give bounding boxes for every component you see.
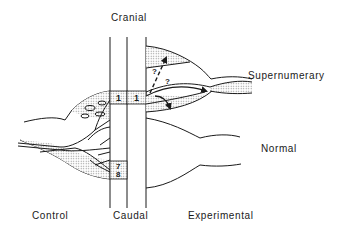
label-experimental: Experimental <box>188 210 254 221</box>
segment-number: 8 <box>116 170 121 179</box>
label-normal: Normal <box>261 143 297 154</box>
label-cranial: Cranial <box>111 12 147 23</box>
control-limb <box>18 91 110 179</box>
label-caudal: Caudal <box>113 210 148 221</box>
question-mark: ? <box>165 77 170 86</box>
label-control: Control <box>32 210 68 221</box>
diagram-canvas: 1 1 7 8 ? ? <box>0 0 338 235</box>
label-supernumerary: Supernumerary <box>248 70 325 81</box>
nerve-branch <box>98 152 110 155</box>
normal-upper-outline <box>146 118 240 138</box>
question-mark: ? <box>152 67 157 76</box>
normal-lower-outline <box>146 164 241 188</box>
segment-number: 1 <box>116 93 121 103</box>
graft-boundaries <box>110 37 146 208</box>
nerve-branch <box>100 138 110 145</box>
segment-number: 1 <box>134 93 139 103</box>
